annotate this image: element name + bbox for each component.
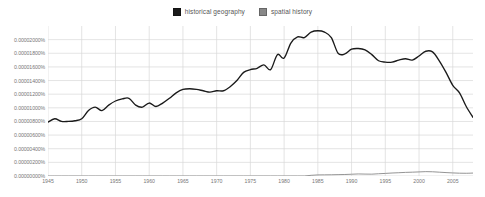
- grid-lines: [48, 26, 473, 176]
- y-axis-tick-label: 0.00000400%: [14, 146, 45, 152]
- legend-label-historical-geography: historical geography: [185, 8, 245, 16]
- y-axis-tick-label: 0.00001400%: [14, 78, 45, 84]
- x-axis-tick-label: 1960: [143, 178, 155, 184]
- x-axis-tick-label: 1985: [312, 178, 324, 184]
- x-axis-tick-label: 1975: [245, 178, 257, 184]
- plot-area: [48, 26, 473, 176]
- y-axis-tick-label: 0.00001600%: [14, 64, 45, 70]
- y-axis-tick-label: 0.00001200%: [14, 91, 45, 97]
- legend-label-spatial-history: spatial history: [271, 8, 312, 16]
- x-axis-tick-label: 1970: [211, 178, 223, 184]
- legend-item-historical-geography[interactable]: historical geography: [173, 8, 245, 16]
- x-axis-tick-label: 2005: [447, 178, 459, 184]
- y-axis-tick-label: 0.00000600%: [14, 132, 45, 138]
- y-axis-tick-label: 0.00000800%: [14, 118, 45, 124]
- series-line-historical-geography: [48, 31, 473, 122]
- y-axis-tick-label: 0.00000000%: [14, 173, 45, 179]
- y-axis-tick-label: 0.00001800%: [14, 50, 45, 56]
- chart-legend: historical geography spatial history: [0, 8, 485, 16]
- chart-svg: [48, 26, 473, 176]
- x-axis-tick-label: 1945: [42, 178, 54, 184]
- x-axis-tick-label: 1965: [177, 178, 189, 184]
- x-axis-tick-label: 1955: [110, 178, 122, 184]
- legend-swatch-spatial-history: [259, 8, 267, 16]
- series-lines: [48, 31, 473, 176]
- y-axis-tick-label: 0.00002000%: [14, 37, 45, 43]
- x-axis-tick-label: 1990: [346, 178, 358, 184]
- x-axis-tick-label: 1980: [278, 178, 290, 184]
- x-axis-tick-label: 1995: [380, 178, 392, 184]
- ngram-chart: historical geography spatial history 0.0…: [0, 0, 485, 197]
- legend-item-spatial-history[interactable]: spatial history: [259, 8, 312, 16]
- y-axis-tick-label: 0.00000200%: [14, 159, 45, 165]
- y-axis-labels: 0.00002000%0.00001800%0.00001600%0.00001…: [0, 26, 46, 176]
- x-axis-tick-label: 2000: [413, 178, 425, 184]
- y-axis-tick-label: 0.00001000%: [14, 105, 45, 111]
- legend-swatch-historical-geography: [173, 8, 181, 16]
- x-axis-labels: 1945195019551960196519701975198019851990…: [48, 176, 473, 190]
- x-axis-tick-label: 1950: [76, 178, 88, 184]
